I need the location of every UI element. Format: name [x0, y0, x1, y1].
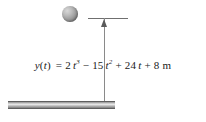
equation-units: m: [162, 59, 171, 71]
physics-diagram: y(t) = 2t3 − 15t2 + 24t + 8 m: [0, 0, 206, 122]
equation-operator-2: +: [115, 59, 121, 71]
ground-surface: [8, 101, 115, 109]
equation-paren-close: ): [47, 59, 51, 71]
position-equation: y(t) = 2t3 − 15t2 + 24t + 8 m: [0, 59, 206, 71]
equation-term1-coefficient: 2: [65, 59, 71, 71]
equation-term3-variable: t: [138, 59, 141, 71]
sphere-icon: [62, 6, 78, 22]
arrow-up-icon: [101, 19, 107, 27]
equation-operator-3: +: [144, 59, 150, 71]
equation-equals-sign: =: [56, 59, 62, 71]
equation-term2-exponent: 2: [109, 58, 113, 66]
equation-term2-coefficient: 15: [92, 59, 103, 71]
equation-term3-coefficient: 24: [125, 59, 136, 71]
equation-term4-coefficient: 8: [154, 59, 160, 71]
equation-term1-exponent: 3: [76, 58, 80, 66]
datum-reference-line: [88, 18, 128, 19]
equation-operator-1: −: [83, 59, 89, 71]
